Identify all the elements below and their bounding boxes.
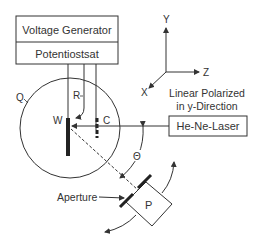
rotation-arrow-up	[162, 162, 174, 193]
working-electrode-label: W	[53, 115, 63, 126]
rotation-arrow-down	[105, 215, 136, 232]
x-axis-label: X	[141, 87, 148, 98]
voltage-generator-label: Voltage Generator	[22, 24, 112, 36]
aperture-label: Aperture	[57, 191, 97, 203]
angle-label: Θ	[133, 151, 141, 162]
experimental-setup-diagram: Voltage Generator Potentiostsat Y Z X Q …	[0, 0, 258, 245]
y-axis-label: Y	[163, 14, 170, 25]
z-axis-label: Z	[203, 67, 209, 78]
instrument-box: Voltage Generator Potentiostsat	[16, 16, 118, 64]
polarizer-label: P	[145, 199, 152, 211]
coordinate-axes	[149, 28, 199, 88]
counter-electrode-label: C	[103, 115, 110, 126]
laser-label: He-Ne-Laser	[177, 120, 240, 132]
laser-caption-line2: in y-Direction	[176, 100, 237, 112]
laser-caption-line1: Linear Polarized	[169, 87, 245, 99]
working-electrode	[66, 118, 70, 156]
reference-electrode-label: R	[73, 90, 80, 101]
reflected-beam	[71, 129, 138, 190]
cell-label: Q	[16, 92, 24, 103]
potentiostat-label: Potentiostsat	[35, 48, 99, 60]
